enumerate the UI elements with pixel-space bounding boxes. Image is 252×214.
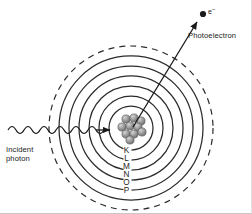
electron-symbol-label: e− bbox=[208, 8, 215, 16]
shell-label-p: P bbox=[122, 186, 131, 195]
electron-dot bbox=[200, 11, 206, 17]
incident-photon-label-line2: photon bbox=[6, 154, 30, 163]
photoelectric-effect-diagram: e− Photoelectron Incidentphoton K L M N … bbox=[0, 0, 252, 214]
incident-photon-label: Incidentphoton bbox=[6, 146, 33, 163]
nucleus bbox=[118, 114, 146, 144]
photoelectron-label: Photoelectron bbox=[188, 32, 236, 41]
